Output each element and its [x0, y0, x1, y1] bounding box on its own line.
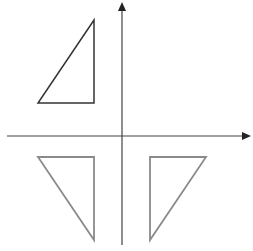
triangle-b — [150, 157, 206, 240]
y-axis-arrow-icon — [118, 2, 126, 11]
x-axis-arrow-icon — [242, 132, 251, 140]
coordinate-graph — [0, 0, 253, 251]
triangle-a — [38, 157, 94, 240]
triangle-A — [38, 20, 94, 103]
